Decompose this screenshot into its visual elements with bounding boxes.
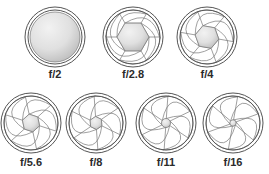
aperture-f4 (174, 4, 240, 70)
aperture-f2-8 (100, 4, 166, 70)
aperture-diagram: f/2f/2.8f/4f/5.6f/8f/11f/16 (0, 0, 269, 174)
aperture-opening (30, 12, 80, 62)
aperture-label-f2-8: f/2.8 (103, 69, 163, 80)
aperture-opening (162, 119, 171, 128)
aperture-graphic-f2 (22, 4, 88, 70)
aperture-label-f4: f/4 (177, 69, 237, 80)
aperture-f16 (200, 90, 266, 156)
aperture-graphic-f16 (200, 90, 266, 156)
aperture-graphic-f8 (63, 90, 129, 156)
aperture-graphic-f2-8 (100, 4, 166, 70)
aperture-f8 (63, 90, 129, 156)
aperture-label-f5-6: f/5.6 (1, 157, 61, 168)
aperture-label-f16: f/16 (203, 157, 263, 168)
aperture-f5-6 (0, 90, 64, 156)
aperture-f2 (22, 4, 88, 70)
aperture-graphic-f5-6 (0, 90, 64, 156)
aperture-graphic-f11 (133, 90, 199, 156)
aperture-opening (230, 120, 236, 126)
aperture-label-f2: f/2 (25, 69, 85, 80)
aperture-label-f8: f/8 (66, 157, 126, 168)
aperture-graphic-f4 (174, 4, 240, 70)
aperture-f11 (133, 90, 199, 156)
aperture-label-f11: f/11 (136, 157, 196, 168)
